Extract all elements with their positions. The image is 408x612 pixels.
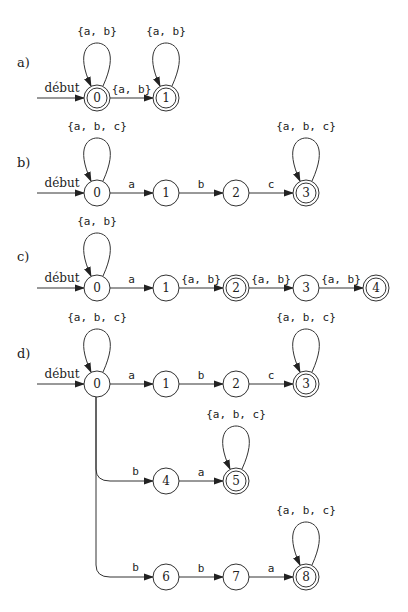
automaton-label: c) xyxy=(17,249,29,264)
automaton-d: d)débutabcbabba{a, b, c}012{a, b, c}34{a… xyxy=(17,311,336,590)
transition-label: a xyxy=(128,178,135,191)
transition-label: b xyxy=(198,178,205,191)
automaton-b: b)débutabc{a, b, c}012{a, b, c}3 xyxy=(17,120,336,206)
state-id: 8 xyxy=(302,570,310,584)
state-2: 2 xyxy=(223,371,249,397)
state-id: 3 xyxy=(302,281,310,295)
state-2: 2 xyxy=(223,275,249,301)
self-loop-edge xyxy=(293,138,320,181)
transition-label: {a, b} xyxy=(112,83,152,96)
state-4: 4 xyxy=(153,468,179,494)
transition-label: a xyxy=(128,273,135,286)
state-id: 4 xyxy=(162,474,170,488)
self-loop-label: {a, b} xyxy=(77,25,117,38)
self-loop-label: {a, b} xyxy=(77,215,117,228)
transition-label: a xyxy=(128,369,135,382)
state-1: 1 xyxy=(153,275,179,301)
transition-label: {a, b} xyxy=(181,273,221,286)
self-loop-edge xyxy=(84,329,111,372)
state-id: 2 xyxy=(232,186,240,200)
state-id: 0 xyxy=(93,281,101,295)
transition-label: c xyxy=(268,369,275,382)
state-7: 7 xyxy=(223,564,249,590)
state-2: 2 xyxy=(223,180,249,206)
self-loop-edge xyxy=(84,233,111,276)
state-id: 3 xyxy=(302,186,310,200)
state-id: 6 xyxy=(162,570,170,584)
state-6: 6 xyxy=(153,564,179,590)
transition-label: b xyxy=(198,369,205,382)
self-loop-label: {a, b, c} xyxy=(67,120,127,133)
transition-label: b xyxy=(132,561,139,574)
state-id: 1 xyxy=(162,91,170,105)
start-label: début xyxy=(44,176,79,190)
transition-label: b xyxy=(132,465,139,478)
automaton-label: d) xyxy=(17,346,30,361)
transition-label: a xyxy=(268,562,275,575)
transition-label: c xyxy=(268,178,275,191)
self-loop-edge xyxy=(84,43,111,86)
state-4: 4 xyxy=(363,275,389,301)
state-1: 1 xyxy=(153,180,179,206)
self-loop-edge xyxy=(223,426,250,469)
self-loop-label: {a, b, c} xyxy=(276,120,336,133)
state-id: 2 xyxy=(232,377,240,391)
self-loop-edge xyxy=(153,43,180,86)
transition-edge xyxy=(96,397,153,577)
transition-label: {a, b} xyxy=(321,273,361,286)
self-loop-label: {a, b, c} xyxy=(206,408,266,421)
state-id: 0 xyxy=(93,91,101,105)
automaton-label: b) xyxy=(17,155,30,170)
state-3: 3 xyxy=(293,275,319,301)
transition-label: {a, b} xyxy=(251,273,291,286)
state-id: 1 xyxy=(162,281,170,295)
start-label: début xyxy=(44,367,79,381)
automaton-c: c)débuta{a, b}{a, b}{a, b}{a, b}01234 xyxy=(17,215,389,301)
state-id: 7 xyxy=(232,570,240,584)
transition-label: a xyxy=(198,466,205,479)
state-id: 1 xyxy=(162,186,170,200)
self-loop-label: {a, b} xyxy=(146,25,186,38)
self-loop-label: {a, b, c} xyxy=(67,311,127,324)
automata-diagram: a)début{a, b}{a, b}0{a, b}1b)débutabc{a,… xyxy=(0,0,408,612)
state-id: 0 xyxy=(93,377,101,391)
state-id: 1 xyxy=(162,377,170,391)
self-loop-edge xyxy=(293,329,320,372)
automaton-label: a) xyxy=(17,55,30,70)
self-loop-edge xyxy=(84,138,111,181)
start-label: début xyxy=(44,81,79,95)
state-id: 4 xyxy=(372,281,380,295)
transition-edge xyxy=(96,397,153,481)
state-id: 3 xyxy=(302,377,310,391)
self-loop-label: {a, b, c} xyxy=(276,504,336,517)
start-label: début xyxy=(44,271,79,285)
state-id: 5 xyxy=(232,474,240,488)
state-1: 1 xyxy=(153,371,179,397)
state-id: 0 xyxy=(93,186,101,200)
automaton-a: a)début{a, b}{a, b}0{a, b}1 xyxy=(17,25,186,111)
diagram-root: a)début{a, b}{a, b}0{a, b}1b)débutabc{a,… xyxy=(17,25,389,590)
state-id: 2 xyxy=(232,281,240,295)
self-loop-edge xyxy=(293,522,320,565)
transition-label: b xyxy=(198,562,205,575)
self-loop-label: {a, b, c} xyxy=(276,311,336,324)
